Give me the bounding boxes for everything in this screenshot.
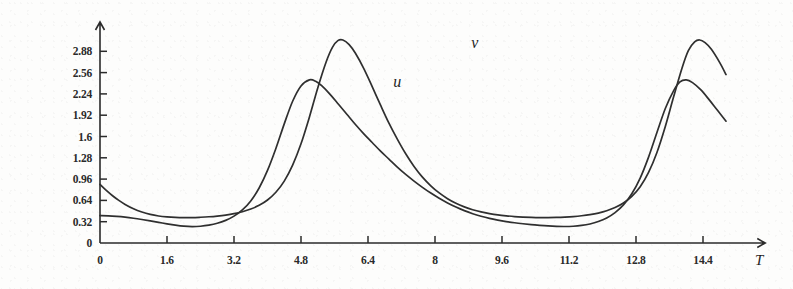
curve-label-u: u — [393, 73, 401, 90]
y-tick-label: 0.64 — [73, 194, 93, 206]
y-tick-label: 0 — [86, 237, 92, 249]
x-tick-label: 4.8 — [294, 254, 308, 266]
x-tick-label: 0 — [97, 254, 103, 266]
x-axis-line — [100, 239, 765, 248]
x-tick-label: 1.6 — [160, 254, 174, 266]
x-tick-label: 12.8 — [626, 254, 646, 266]
x-axis-ticks — [167, 236, 703, 243]
x-tick-label: 6.4 — [361, 254, 375, 266]
curve-annotations: uv — [393, 34, 479, 90]
y-tick-label: 0.32 — [73, 216, 93, 228]
axis-group — [96, 22, 766, 248]
figure-canvas: 00.320.640.961.281.61.922.242.562.88 01.… — [0, 0, 793, 289]
x-axis-tick-labels: 01.63.24.86.489.611.212.814.4 — [97, 254, 713, 266]
curve-u — [100, 80, 726, 227]
x-tick-label: 11.2 — [560, 254, 579, 266]
series-curves — [100, 40, 726, 227]
y-tick-label: 2.56 — [73, 67, 93, 79]
y-tick-label: 2.24 — [73, 88, 93, 100]
y-axis-line — [96, 22, 105, 243]
y-tick-label: 2.88 — [73, 45, 93, 57]
x-tick-label: 14.4 — [693, 254, 713, 266]
y-axis-tick-labels: 00.320.640.961.281.61.922.242.562.88 — [73, 45, 93, 249]
y-tick-label: 1.6 — [78, 131, 92, 143]
y-axis-ticks — [100, 51, 107, 221]
x-axis-label: T — [755, 252, 765, 268]
oscillation-chart: 00.320.640.961.281.61.922.242.562.88 01.… — [0, 0, 793, 289]
curve-label-v: v — [471, 34, 479, 51]
x-tick-label: 3.2 — [227, 254, 241, 266]
y-tick-label: 1.92 — [73, 109, 93, 121]
y-tick-label: 0.96 — [73, 173, 93, 185]
x-tick-label: 8 — [432, 254, 438, 266]
y-tick-label: 1.28 — [73, 152, 93, 164]
x-tick-label: 9.6 — [495, 254, 509, 266]
curve-v — [100, 40, 726, 218]
